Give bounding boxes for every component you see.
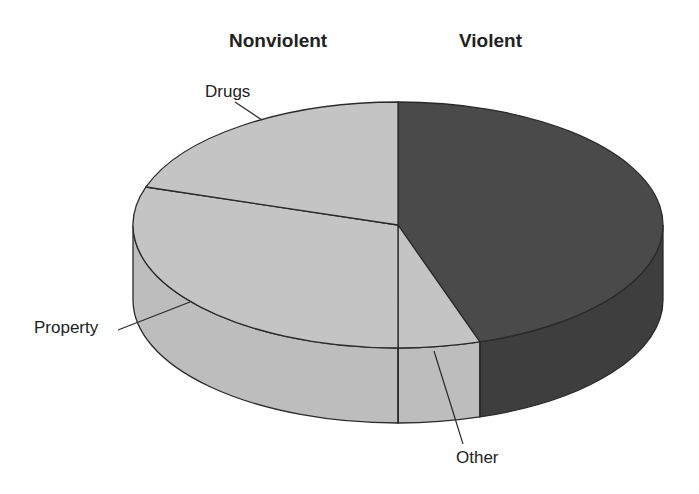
label-property: Property — [34, 318, 98, 338]
side-wall-other — [398, 342, 480, 423]
group-header-nonviolent: Nonviolent — [229, 30, 327, 52]
pie-chart-3d — [0, 0, 699, 494]
label-drugs: Drugs — [205, 82, 250, 102]
leader-line-drugs — [235, 102, 262, 120]
label-other: Other — [456, 448, 499, 468]
group-header-violent: Violent — [459, 30, 522, 52]
